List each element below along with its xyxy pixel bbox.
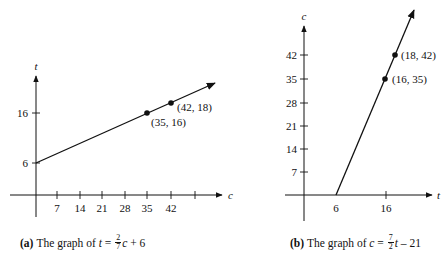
panel-a-caption: (a) The graph of t = 2 7 c + 6: [20, 234, 145, 251]
panel-a-point-label: (35, 16): [151, 116, 186, 129]
panel-a-point-label: (42, 18): [177, 101, 212, 114]
x-tick-label: 7: [54, 202, 60, 214]
x-tick-label: 21: [97, 202, 108, 214]
panel-a-x-tick-labels: 7 14 21 28 35 42: [54, 202, 176, 214]
panel-a-line: [36, 83, 215, 163]
figure-canvas: 7 14 21 28 35 42 16 6 t c (35, 16) (42, …: [0, 0, 443, 263]
caption-text: The graph of: [36, 237, 95, 249]
caption-fraction: 2 7: [115, 234, 121, 251]
panel-a-graph: 7 14 21 28 35 42 16 6 t c (35, 16) (42, …: [10, 60, 233, 217]
y-tick-label: 14: [286, 143, 298, 155]
panel-b-point-16-35: [382, 76, 388, 82]
panel-b-line: [336, 10, 414, 195]
panel-a-point-35-16: [144, 110, 150, 116]
x-tick-label: 35: [142, 202, 154, 214]
y-tick-label: 42: [286, 49, 297, 61]
caption-rest: – 21: [398, 237, 421, 249]
panel-a-x-axis-label: c: [228, 189, 233, 201]
panel-b-x-tick-labels: 6 16: [333, 202, 392, 214]
panel-b-y-axis-label: c: [302, 10, 307, 22]
x-tick-label: 42: [166, 202, 177, 214]
x-tick-label: 16: [381, 202, 393, 214]
x-tick-label: 14: [75, 202, 87, 214]
panel-a-y-axis-label: t: [34, 60, 38, 72]
panel-b-point-label: (18, 42): [401, 49, 436, 62]
x-tick-label: 28: [120, 202, 132, 214]
y-tick-label: 6: [23, 157, 29, 169]
caption-prefix: (b): [290, 237, 304, 249]
panel-a-point-42-18: [168, 100, 174, 106]
caption-fraction: 7 2: [388, 234, 394, 251]
panel-b-caption: (b) The graph of c = 7 2 t – 21: [290, 234, 421, 251]
y-tick-label: 7: [292, 166, 298, 178]
y-tick-label: 35: [286, 73, 298, 85]
panel-b-graph: 6 16 42 35 28 21 14 7 c t (18, 42) (16, …: [285, 10, 441, 221]
panel-b-point-18-42: [392, 52, 398, 58]
caption-eq: =: [374, 237, 386, 249]
caption-prefix: (a): [20, 237, 33, 249]
caption-eq: =: [102, 237, 114, 249]
panel-b-point-label: (16, 35): [392, 73, 427, 86]
y-tick-label: 28: [286, 97, 298, 109]
panel-b-x-axis-label: t: [437, 189, 441, 201]
x-tick-label: 6: [333, 202, 339, 214]
y-tick-label: 21: [286, 120, 297, 132]
y-tick-label: 16: [17, 107, 29, 119]
caption-text: The graph of: [307, 237, 366, 249]
panel-a-y-tick-labels: 16 6: [17, 107, 29, 169]
panel-b-y-tick-labels: 42 35 28 21 14 7: [286, 49, 298, 178]
caption-rest: + 6: [127, 237, 145, 249]
